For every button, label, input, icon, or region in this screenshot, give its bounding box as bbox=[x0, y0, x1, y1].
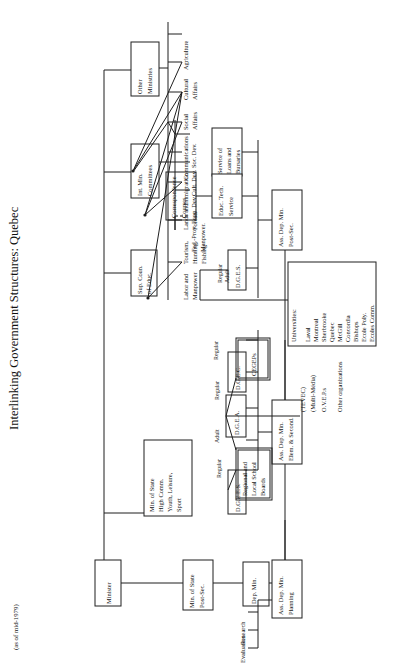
svg-text:Manpower: Manpower bbox=[191, 271, 198, 300]
svg-text:Regular: Regular bbox=[213, 341, 219, 360]
svg-text:Loans and: Loans and bbox=[225, 147, 232, 174]
svg-text:Regular: Regular bbox=[214, 381, 220, 400]
svg-text:Elem. & Second.: Elem. & Second. bbox=[287, 417, 294, 461]
svg-text:Regular: Regular bbox=[217, 264, 223, 283]
svg-text:Sup. Coun.: Sup. Coun. bbox=[136, 265, 143, 294]
svg-text:Educ. Tech.: Educ. Tech. bbox=[217, 185, 224, 216]
svg-text:Sherbrooke: Sherbrooke bbox=[320, 312, 327, 342]
svg-text:Ass. Dep. Min.: Ass. Dep. Min. bbox=[277, 422, 284, 461]
svg-text:Tourism,: Tourism, bbox=[182, 241, 189, 264]
svg-text:Min. of State: Min. of State bbox=[148, 478, 155, 512]
svg-text:High Comm.: High Comm. bbox=[157, 478, 164, 512]
svg-text:(as of mid-1979): (as of mid-1979) bbox=[12, 604, 20, 650]
svg-text:Youth, Leisure,: Youth, Leisure, bbox=[166, 472, 173, 512]
svg-text:Adult: Adult bbox=[224, 269, 230, 283]
svg-text:Other: Other bbox=[136, 79, 143, 94]
svg-text:Other organizations: Other organizations bbox=[336, 361, 343, 412]
svg-text:Interlinking Government Struct: Interlinking Government Structures: Queb… bbox=[7, 206, 21, 430]
svg-text:Service: Service bbox=[227, 197, 234, 216]
svg-text:Quebec: Quebec bbox=[328, 322, 335, 342]
svg-text:(TEVEC): (TEVEC) bbox=[299, 387, 307, 412]
svg-text:Social: Social bbox=[182, 114, 189, 130]
svg-text:D.G.E.S.: D.G.E.S. bbox=[234, 265, 241, 288]
svg-text:Immigration: Immigration bbox=[182, 172, 189, 205]
svg-text:Bursaries: Bursaries bbox=[234, 149, 241, 174]
svg-text:Sport: Sport bbox=[175, 498, 182, 512]
svg-text:Agriculture: Agriculture bbox=[182, 40, 189, 70]
svg-text:Affairs: Affairs bbox=[191, 112, 198, 130]
svg-text:Boards: Boards bbox=[259, 477, 266, 496]
svg-text:Dep. Min.: Dep. Min. bbox=[250, 578, 257, 604]
svg-text:Correspondence: Correspondence bbox=[170, 176, 177, 218]
svg-text:Affairs: Affairs bbox=[191, 82, 198, 100]
svg-text:Hunting,: Hunting, bbox=[191, 241, 198, 264]
svg-text:Service of: Service of bbox=[216, 147, 223, 174]
svg-text:Cult. Dev.: Cult. Dev. bbox=[190, 170, 197, 196]
svg-text:Fishing: Fishing bbox=[200, 244, 207, 264]
svg-text:Cultural: Cultural bbox=[182, 79, 189, 100]
svg-text:Bishops: Bishops bbox=[352, 321, 359, 342]
svg-text:Min. of State: Min. of State bbox=[188, 574, 195, 608]
svg-text:Concordia: Concordia bbox=[344, 315, 351, 342]
svg-text:Post-Sec.: Post-Sec. bbox=[198, 584, 205, 608]
svg-text:Ass. Dep. Min.: Ass. Dep. Min. bbox=[277, 576, 284, 615]
svg-text:Minister: Minister bbox=[105, 581, 112, 604]
svg-text:Soc. Dev.: Soc. Dev. bbox=[190, 143, 197, 168]
svg-text:Montreal: Montreal bbox=[312, 318, 319, 342]
svg-text:Universities:: Universities: bbox=[290, 309, 297, 342]
svg-text:D.G.E.A.: D.G.E.A. bbox=[233, 410, 240, 435]
svg-text:Regional and: Regional and bbox=[241, 461, 248, 496]
svg-text:Post-Sec.: Post-Sec. bbox=[287, 223, 294, 247]
svg-text:Ecoles Comm.: Ecoles Comm. bbox=[368, 304, 375, 342]
svg-text:Planning: Planning bbox=[287, 591, 294, 615]
svg-text:Adult: Adult bbox=[214, 429, 220, 443]
chart-overlay: .bx{fill:#fff;stroke:#1f1f1f;stroke-widt… bbox=[0, 0, 419, 665]
svg-text:Int. Min.: Int. Min. bbox=[136, 173, 143, 196]
svg-text:Ecole Poly.: Ecole Poly. bbox=[360, 313, 367, 342]
diagram-page: Interlinking Government Structures: Queb… bbox=[0, 0, 419, 665]
svg-text:(Multi-Média): (Multi-Média) bbox=[309, 375, 317, 412]
svg-text:Lands and: Lands and bbox=[182, 203, 189, 230]
svg-text:Forests: Forests bbox=[191, 211, 198, 230]
svg-text:Evaluation: Evaluation bbox=[239, 635, 246, 663]
svg-text:Ass. Dep. Min.: Ass. Dep. Min. bbox=[277, 208, 284, 247]
svg-text:Ministries: Ministries bbox=[146, 68, 153, 94]
svg-text:Regular: Regular bbox=[216, 459, 222, 478]
svg-text:Laval: Laval bbox=[304, 327, 311, 342]
svg-text:Local School: Local School bbox=[250, 462, 257, 496]
svg-text:CEGEPs: CEGEPs bbox=[250, 353, 257, 376]
svg-text:McGill: McGill bbox=[336, 323, 343, 342]
svg-text:O.V.E.P.s: O.V.E.P.s bbox=[320, 387, 327, 412]
svg-text:Labor and: Labor and bbox=[182, 273, 189, 300]
